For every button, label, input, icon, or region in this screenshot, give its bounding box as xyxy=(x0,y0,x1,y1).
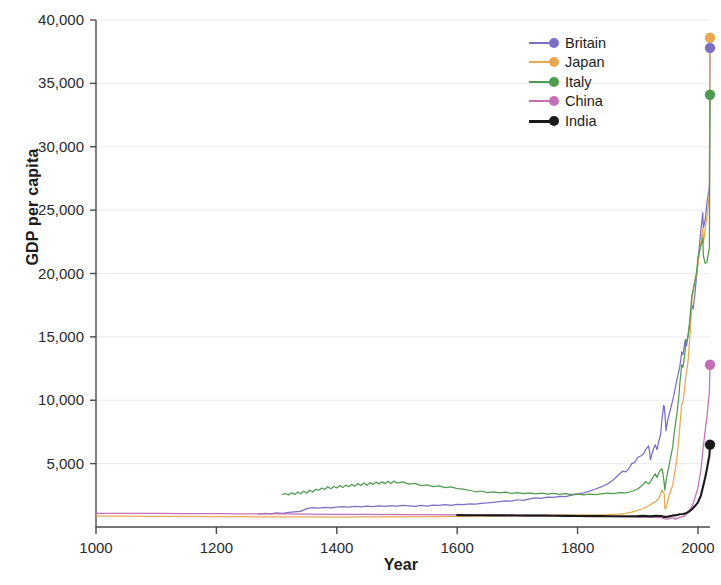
legend-item-britain[interactable]: Britain xyxy=(529,33,606,53)
gdp-per-capita-chart: GDP per capita Year 5,00010,00015,00020,… xyxy=(0,0,721,585)
series-line-italy xyxy=(283,95,710,495)
legend-marker-icon xyxy=(529,95,559,107)
legend-marker-icon xyxy=(529,76,559,88)
series-endpoint-japan xyxy=(705,33,715,43)
legend-item-italy[interactable]: Italy xyxy=(529,72,606,92)
legend-item-label: Japan xyxy=(565,55,605,70)
legend-marker-icon xyxy=(529,115,559,127)
series-line-china xyxy=(96,365,710,520)
series-line-britain xyxy=(259,48,710,514)
legend-item-label: Britain xyxy=(565,36,606,51)
legend-item-japan[interactable]: Japan xyxy=(529,53,606,73)
legend-item-china[interactable]: China xyxy=(529,92,606,112)
series-endpoint-britain xyxy=(705,43,715,53)
legend-marker-icon xyxy=(529,37,559,49)
legend-item-india[interactable]: India xyxy=(529,111,606,131)
chart-legend: BritainJapanItalyChinaIndia xyxy=(529,33,606,131)
plot-area xyxy=(0,0,721,585)
legend-item-label: Italy xyxy=(565,75,592,90)
legend-marker-icon xyxy=(529,56,559,68)
series-line-japan xyxy=(96,38,710,517)
series-endpoint-italy xyxy=(705,90,715,100)
legend-item-label: India xyxy=(565,114,596,129)
series-endpoint-india xyxy=(705,439,715,449)
legend-item-label: China xyxy=(565,94,603,109)
series-line-india xyxy=(457,445,710,517)
series-endpoint-china xyxy=(705,360,715,370)
